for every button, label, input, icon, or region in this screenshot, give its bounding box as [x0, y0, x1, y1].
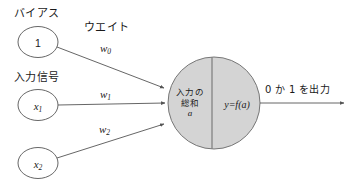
weight-caption: ウエイト	[84, 22, 129, 35]
weight-label-w0: w0	[100, 42, 111, 55]
weight-label-w1-sub: 1	[107, 93, 111, 102]
weight-label-w0-sub: 0	[107, 47, 111, 56]
neuron-diagram-canvas: バイアス 1 ウエイト w0 入力信号 x1 x2 w1 w2 入力の 総和 a…	[0, 0, 355, 189]
input-node-x1-label: x1	[34, 100, 43, 113]
edge-x1-to-neuron	[58, 103, 165, 105]
weight-label-w2-sub: 2	[106, 128, 110, 137]
neuron-summation-line1: 入力の	[176, 87, 204, 98]
input-node-x2-label: x2	[34, 158, 43, 171]
output-label: 0 か 1 を出力	[265, 84, 330, 96]
input-signal-caption: 入力信号	[14, 72, 59, 85]
neuron-summation-line2: 総和	[176, 97, 204, 108]
neuron-summation-symbol: a	[176, 108, 204, 119]
bias-caption: バイアス	[14, 8, 59, 21]
neuron-summation-label: 入力の 総和 a	[176, 87, 204, 120]
edge-x2-to-neuron	[57, 124, 164, 158]
weight-label-w2: w2	[99, 123, 110, 136]
weight-label-w1: w1	[100, 88, 111, 101]
input-node-x1-sub: 1	[39, 105, 43, 114]
neuron-activation-label: y=f(a)	[224, 99, 250, 111]
input-node-x2-sub: 2	[39, 163, 43, 172]
bias-node-value: 1	[35, 37, 41, 49]
